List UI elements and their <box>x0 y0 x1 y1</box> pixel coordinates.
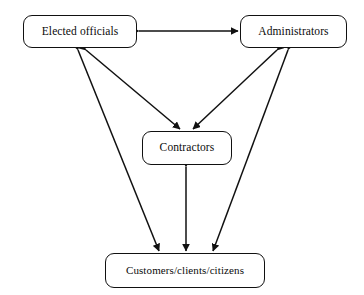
node-customers-clients-citizens[interactable]: Customers/clients/citizens <box>105 253 265 288</box>
node-administrators[interactable]: Administrators <box>240 15 347 48</box>
node-label-contractors: Contractors <box>160 142 215 154</box>
node-label-administrators: Administrators <box>258 26 328 38</box>
node-contractors[interactable]: Contractors <box>142 131 232 165</box>
node-label-customers-clients-citizens: Customers/clients/citizens <box>126 265 244 276</box>
node-label-elected-officials: Elected officials <box>42 26 119 38</box>
node-elected-officials[interactable]: Elected officials <box>23 15 137 48</box>
edge-admins-contract <box>193 50 277 129</box>
edge-elected-contract <box>86 50 180 129</box>
diagram-canvas: Elected officials Administrators Contrac… <box>0 0 364 295</box>
